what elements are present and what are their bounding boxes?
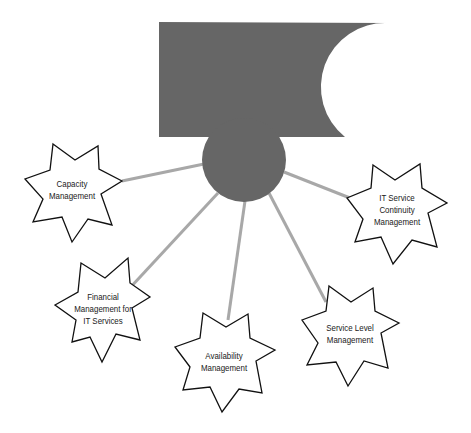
label-line: Capacity bbox=[49, 178, 95, 190]
label-line: Management bbox=[326, 334, 374, 346]
connector-availability bbox=[228, 201, 245, 320]
label-line: Management for bbox=[74, 303, 132, 315]
label-line: IT Services bbox=[74, 315, 132, 327]
label-line: Financial bbox=[74, 291, 132, 303]
connector-financial bbox=[128, 193, 218, 290]
node-it-service-continuity-label: IT Service Continuity Management bbox=[374, 192, 420, 228]
label-line: Management bbox=[49, 190, 95, 202]
node-availability-label: Availability Management bbox=[201, 350, 247, 374]
hub-banner-shape bbox=[159, 22, 387, 137]
label-line: Availability bbox=[201, 350, 247, 362]
diagram-canvas: Capacity Management IT Service Continuit… bbox=[0, 0, 471, 433]
node-service-level-label: Service Level Management bbox=[326, 322, 374, 346]
label-line: Management bbox=[374, 216, 420, 228]
connector-it-service-continuity bbox=[284, 172, 350, 198]
label-line: Service Level bbox=[326, 322, 374, 334]
connector-service-level bbox=[269, 193, 326, 302]
node-capacity-label: Capacity Management bbox=[49, 178, 95, 202]
label-line: Continuity bbox=[374, 204, 420, 216]
label-line: IT Service bbox=[374, 192, 420, 204]
node-financial-label: Financial Management for IT Services bbox=[74, 291, 132, 327]
connector-capacity bbox=[122, 164, 204, 181]
hub-circle bbox=[202, 118, 286, 202]
label-line: Management bbox=[201, 362, 247, 374]
